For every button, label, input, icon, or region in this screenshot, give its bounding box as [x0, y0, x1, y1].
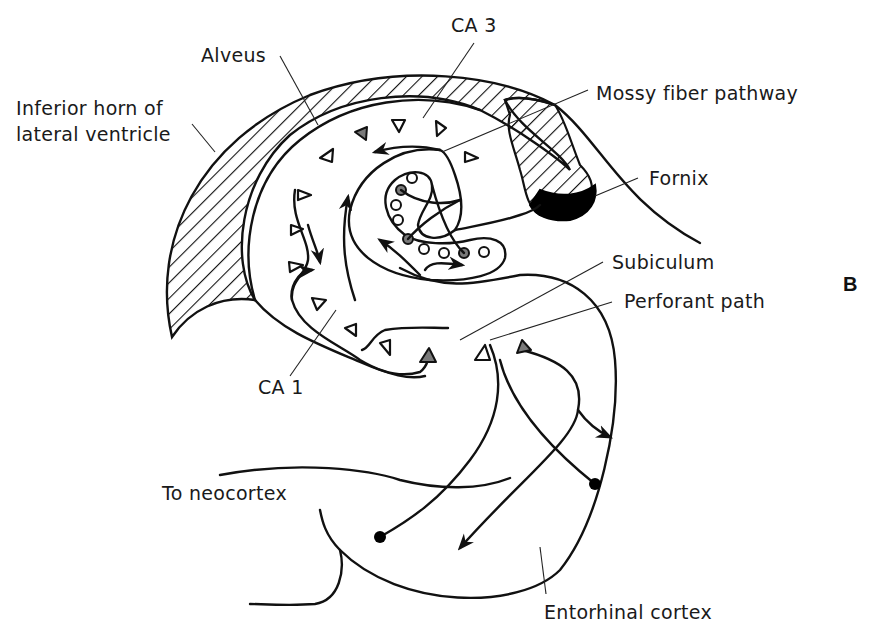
granule-cells	[391, 173, 489, 258]
ca-inner-boundary	[292, 190, 429, 374]
label-inferior-horn-line2: lateral ventricle	[16, 123, 171, 145]
ca3-to-ca1-arrow	[308, 225, 320, 262]
subiculum-to-entorhinal-arrow	[578, 410, 610, 437]
label-perforant-path: Perforant path	[624, 290, 765, 312]
entorhinal-neuron-left	[374, 531, 386, 543]
ca1-lower-line	[255, 300, 425, 377]
label-entorhinal-cortex: Entorhinal cortex	[544, 601, 712, 623]
subiculum-curve	[320, 268, 616, 598]
dentate-to-fornix	[455, 205, 540, 230]
leader-fornix	[595, 178, 638, 196]
ca1-upper-line	[362, 328, 448, 351]
label-alveus: Alveus	[201, 44, 266, 66]
to-neocortex-line	[250, 550, 342, 605]
label-mossy-fiber-pathway: Mossy fiber pathway	[596, 82, 798, 104]
schaffer-arrow	[292, 270, 312, 300]
label-fornix: Fornix	[649, 167, 709, 189]
label-to-neocortex: To neocortex	[162, 482, 287, 504]
pyramidal-cells-open	[289, 120, 490, 360]
label-ca1: CA 1	[258, 376, 304, 398]
label-inferior-horn-line1: Inferior horn of	[16, 97, 163, 119]
label-subiculum: Subiculum	[612, 251, 714, 273]
leader-entorhinal	[540, 547, 546, 594]
hippocampus-diagram: Alveus CA 3 Inferior horn of lateral ven…	[0, 0, 877, 631]
panel-label: B	[843, 273, 857, 296]
dentate-gyrus-outer	[349, 149, 505, 280]
label-ca3: CA 3	[451, 14, 497, 36]
perforant-path-fiber-2	[500, 360, 595, 484]
leader-ca1	[290, 310, 336, 376]
leader-inferior-horn	[192, 124, 215, 152]
granule-output-arrow	[425, 263, 462, 270]
leader-perforant-path	[490, 302, 612, 340]
entorhinal-neuron-right	[589, 478, 601, 490]
